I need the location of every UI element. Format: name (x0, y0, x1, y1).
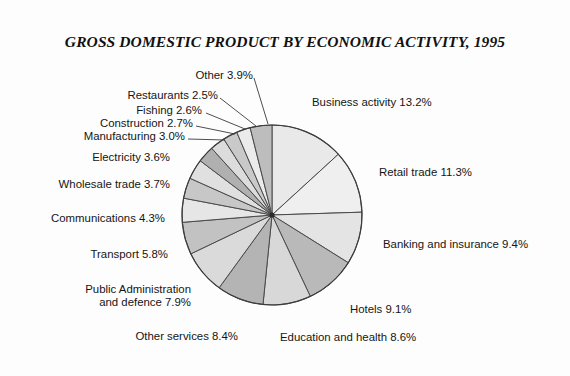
chart-canvas: GROSS DOMESTIC PRODUCT BY ECONOMIC ACTIV… (0, 0, 570, 376)
pie-label-other: Other 3.9% (0, 69, 253, 82)
leader-line-other (254, 78, 268, 124)
leader-line-construction (196, 126, 235, 134)
pie-label-public-admin: Public Administration (0, 283, 191, 296)
pie-label-communications: Communications 4.3% (0, 212, 165, 225)
pie-label-public-admin-2: and defence 7.9% (0, 296, 191, 309)
pie-label-other-services: Other services 8.4% (0, 330, 238, 343)
leader-line-restaurants (220, 98, 256, 126)
pie-label-wholesale-trade: Wholesale trade 3.7% (0, 178, 170, 191)
pie-label-business-activity: Business activity 13.2% (312, 96, 432, 109)
leader-line-manufacturing (188, 139, 225, 140)
pie-label-fishing: Fishing 2.6% (0, 104, 202, 117)
pie-label-restaurants: Restaurants 2.5% (0, 89, 218, 102)
pie-center-hub (269, 212, 274, 217)
pie-label-manufacturing: Manufacturing 3.0% (0, 130, 185, 143)
pie-label-transport: Transport 5.8% (0, 248, 168, 261)
pie-label-education-health: Education and health 8.6% (280, 331, 416, 344)
pie-label-retail-trade: Retail trade 11.3% (379, 166, 472, 179)
pie-label-banking-insurance: Banking and insurance 9.4% (383, 238, 528, 251)
pie-label-electricity: Electricity 3.6% (0, 151, 170, 164)
leader-line-fishing (206, 113, 245, 129)
pie-label-construction: Construction 2.7% (0, 117, 193, 130)
pie-label-hotels: Hotels 9.1% (350, 303, 411, 316)
